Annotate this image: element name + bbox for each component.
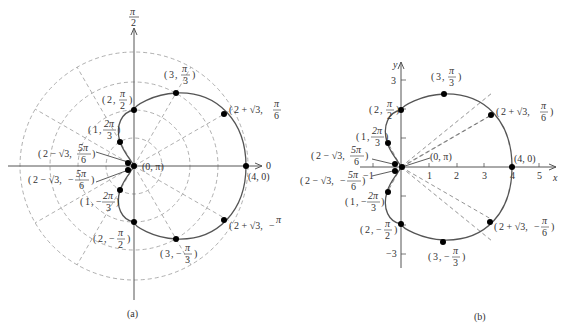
svg-text:): ) — [116, 196, 119, 208]
caption-a: (a) — [127, 308, 138, 320]
label-b-2m3-5pi6: ( 2 − √3, 5π 6 ) — [311, 144, 368, 167]
svg-text:π: π — [542, 215, 548, 226]
svg-text:(: ( — [369, 104, 373, 116]
svg-text:2: 2 — [387, 110, 392, 121]
svg-text:5π: 5π — [348, 169, 359, 180]
x-axis-label: x — [552, 172, 558, 183]
svg-text:−: − — [340, 175, 346, 186]
svg-text:5π: 5π — [76, 168, 87, 179]
svg-text:2 + √3,: 2 + √3, — [501, 106, 530, 117]
svg-text:1: 1 — [350, 196, 355, 207]
label-b-3-pi3: ( 3 , π 3 ) — [431, 65, 461, 88]
y-axis-label: y — [392, 59, 398, 70]
svg-text:(: ( — [496, 106, 500, 118]
label-b-2-negpi2: ( 2 , − π 2 ) — [360, 218, 397, 241]
svg-text:): ) — [127, 233, 130, 245]
label-b-1-neg2pi3: ( 1 , − 2π 3 ) — [345, 190, 384, 213]
svg-text:3: 3 — [371, 202, 376, 213]
svg-text:): ) — [192, 69, 195, 81]
label-b-2p3-negpi6: ( 2 + √3, − π 6 ) — [494, 215, 554, 238]
svg-text:2: 2 — [385, 230, 390, 241]
label-b-4-0: (4, 0) — [514, 153, 536, 165]
axis-label-zero: 0 — [266, 160, 271, 171]
label-a-4-0: (4, 0) — [248, 171, 270, 183]
svg-text:(: ( — [229, 104, 233, 116]
svg-text:): ) — [92, 148, 95, 160]
label-a-3-negpi3: ( 3 , − π 3 ) — [160, 242, 197, 265]
svg-text:,: , — [99, 124, 102, 135]
svg-text:2: 2 — [131, 17, 136, 28]
svg-text:(: ( — [311, 150, 315, 162]
svg-text:3: 3 — [165, 248, 170, 259]
label-a-0-pi: (0, π) — [142, 161, 164, 173]
svg-text:5π: 5π — [78, 142, 89, 153]
svg-text:,: , — [91, 196, 94, 207]
label-a-1-neg2pi3: ( 1 , − 2π 3 ) — [80, 190, 119, 213]
x-tick-5: 5 — [537, 170, 542, 181]
panel-b-cartesian: x y −1 1 2 3 4 5 3 −3 — [300, 59, 558, 323]
svg-text:2 − √3,: 2 − √3, — [33, 174, 62, 185]
svg-text:2: 2 — [98, 233, 103, 244]
svg-text:,: , — [442, 71, 445, 82]
svg-text:6: 6 — [541, 112, 546, 123]
label-a-3-pi3: ( 3 , π 3 ) — [164, 63, 195, 86]
svg-text:): ) — [551, 221, 554, 233]
svg-text:,: , — [104, 233, 107, 244]
svg-text:6: 6 — [81, 154, 86, 165]
svg-text:π: π — [453, 245, 459, 256]
svg-text:−: − — [96, 196, 102, 207]
panel-a-polar: 0 π 2 (4, 0) (0, π) — [8, 6, 282, 320]
svg-text:3: 3 — [433, 251, 438, 262]
svg-text:): ) — [394, 224, 397, 236]
svg-text:3: 3 — [169, 69, 174, 80]
svg-text:2 + √3,: 2 + √3, — [234, 220, 263, 231]
svg-text:,: , — [113, 94, 116, 105]
svg-text:,: , — [380, 104, 383, 115]
svg-text:(: ( — [229, 220, 233, 232]
svg-text:3: 3 — [436, 71, 441, 82]
svg-text:6: 6 — [354, 156, 359, 167]
svg-text:2π: 2π — [103, 190, 114, 201]
svg-text:(: ( — [28, 174, 32, 186]
svg-text:−: − — [176, 248, 182, 259]
svg-text:(: ( — [164, 69, 168, 81]
svg-text:(: ( — [494, 221, 498, 233]
label-a-2m3-neg5pi6: ( 2 − √3, − 5π 6 ) — [28, 168, 94, 191]
svg-text:−: − — [376, 224, 382, 235]
x-tick-1: 1 — [427, 170, 432, 181]
svg-text:): ) — [458, 71, 461, 83]
svg-text:): ) — [194, 248, 197, 260]
svg-text:2: 2 — [107, 94, 112, 105]
svg-text:,: , — [439, 251, 442, 262]
svg-text:): ) — [381, 196, 384, 208]
svg-text:): ) — [365, 150, 368, 162]
caption-b: (b) — [474, 311, 486, 323]
svg-text:−: − — [534, 221, 540, 232]
svg-text:−: − — [109, 233, 115, 244]
y-tick-neg3: −3 — [386, 248, 397, 259]
svg-text:): ) — [117, 124, 120, 136]
x-tick-3: 3 — [482, 170, 487, 181]
svg-text:(: ( — [300, 175, 304, 187]
label-b-0-pi: (0, π) — [430, 151, 452, 163]
svg-text:−: − — [269, 220, 275, 231]
svg-text:π: π — [541, 100, 547, 111]
svg-text:): ) — [396, 104, 399, 116]
svg-text:(: ( — [102, 94, 106, 106]
label-b-2p3-pi6: ( 2 + √3, π 6 ) — [496, 100, 553, 123]
label-a-2m3-5pi6: ( 2 − √3, 5π 6 ) — [38, 142, 95, 165]
svg-text:(: ( — [88, 124, 92, 136]
svg-text:5π: 5π — [351, 144, 362, 155]
label-a-1-2pi3: ( 1 , 2π 3 ) — [88, 118, 120, 141]
svg-text:2π: 2π — [104, 118, 115, 129]
label-a-2p3-negpi6: ( 2 + √3, − π — [229, 214, 282, 232]
svg-text:π: π — [182, 63, 188, 74]
label-b-2-pi2: ( 2 , π 2 ) — [369, 98, 399, 121]
svg-text:π: π — [276, 214, 282, 225]
svg-text:): ) — [462, 251, 465, 263]
svg-text:π: π — [185, 242, 191, 253]
svg-text:): ) — [362, 175, 365, 187]
label-b-3-negpi3: ( 3 , − π 3 ) — [428, 245, 465, 268]
svg-text:3: 3 — [107, 130, 112, 141]
svg-text:2: 2 — [120, 100, 125, 111]
